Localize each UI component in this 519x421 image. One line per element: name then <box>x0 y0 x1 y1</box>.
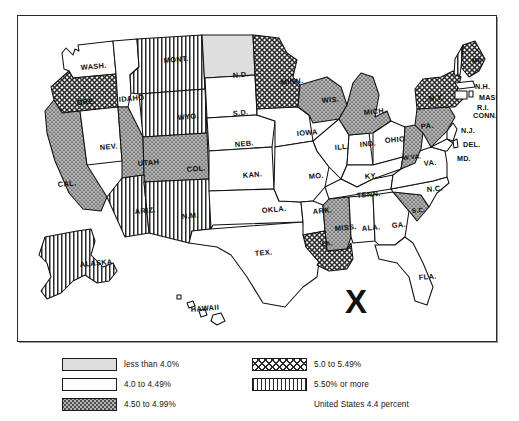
state-label-ala: ALA. <box>361 222 380 233</box>
state-label-ny: N.Y. <box>428 93 444 103</box>
state-label-nev: NEV. <box>99 141 118 152</box>
state-label-iowa: IOWA <box>296 127 318 138</box>
state-label-miss: MISS. <box>334 222 357 233</box>
legend-label-50-549: 5.0 to 5.49% <box>314 360 361 369</box>
state-label-del: DEL. <box>463 140 480 149</box>
state-label-sd: S.D. <box>232 108 249 118</box>
legend-swatch-40-449 <box>62 378 117 391</box>
state-label-nh: N.H. <box>475 82 490 91</box>
state-label-utah: UTAH <box>137 157 159 168</box>
state-label-ark: ARK. <box>312 205 332 216</box>
state-label-sc: S.C. <box>411 206 425 214</box>
state-sd <box>205 75 257 118</box>
state-ny <box>415 71 465 109</box>
state-label-nc: N.C. <box>426 184 443 194</box>
state-label-ariz: ARIZ. <box>134 205 156 216</box>
state-label-nj: N.J. <box>461 126 475 135</box>
state-mass <box>455 81 475 89</box>
state-label-mo: MO. <box>308 171 324 181</box>
legend-label-lt40: less than 4.0% <box>124 360 179 369</box>
state-label-cal: CAL. <box>57 178 76 189</box>
state-label-ohio: OHIO <box>384 134 405 145</box>
state-label-ky: KY. <box>364 171 377 181</box>
state-label-ga: GA. <box>391 220 406 230</box>
state-label-ind: IND. <box>359 139 376 149</box>
state-ore <box>51 71 118 113</box>
state-tex <box>189 222 319 307</box>
state-label-ore: ORE. <box>76 96 96 107</box>
legend-swatch-lt40 <box>62 358 117 371</box>
us-choropleth-map: WASH.ORE.CAL.NEV.IDAHOMONT.WYO.UTAHCOL.A… <box>17 15 497 342</box>
state-nev <box>80 107 122 165</box>
legend-footnote: United States 4.4 percent <box>314 400 409 409</box>
legend-item-550up: 5.50% or more <box>252 376 409 392</box>
legend-swatch-550up <box>252 378 307 391</box>
map-legend: less than 4.0% 4.0 to 4.49% 4.50 to 4.99… <box>0 348 519 418</box>
state-label-pa: PA. <box>420 121 434 131</box>
legend-column-right: 5.0 to 5.49% 5.50% or more United States… <box>252 356 409 416</box>
state-label-va: VA. <box>423 158 437 168</box>
legend-item-50-549: 5.0 to 5.49% <box>252 356 409 372</box>
state-label-md: MD. <box>457 154 471 163</box>
state-label-ill: ILL. <box>334 142 349 152</box>
legend-item-lt40: less than 4.0% <box>62 356 179 372</box>
legend-swatch-450-499 <box>62 398 117 411</box>
state-label-tex: TEX. <box>254 247 273 258</box>
state-ri <box>469 91 473 97</box>
state-label-nm: N.M. <box>181 211 199 221</box>
state-conn <box>455 91 467 99</box>
legend-spacer <box>252 398 307 411</box>
legend-column-left: less than 4.0% 4.0 to 4.49% 4.50 to 4.99… <box>62 356 179 416</box>
legend-label-550up: 5.50% or more <box>314 380 369 389</box>
state-shapes-group <box>39 35 485 325</box>
state-label-fla: FLA. <box>418 271 437 282</box>
legend-item-450-499: 4.50 to 4.99% <box>62 396 179 412</box>
legend-swatch-50-549 <box>252 358 307 371</box>
legend-label-40-449: 4.0 to 4.49% <box>124 380 171 389</box>
state-label-me: ME <box>471 56 482 64</box>
state-label-neb: NEB. <box>234 138 254 149</box>
state-label-wis: WIS. <box>321 95 339 105</box>
state-label-la: LA. <box>321 239 332 247</box>
state-label-conn: CONN. <box>473 111 497 120</box>
map-svg: WASH.ORE.CAL.NEV.IDAHOMONT.WYO.UTAHCOL.A… <box>17 15 497 342</box>
state-ala <box>349 195 375 243</box>
state-label-hawaii: HAWAII <box>190 303 219 314</box>
state-nh <box>454 45 463 75</box>
state-fla <box>375 237 433 305</box>
state-label-kan: KAN. <box>242 169 262 180</box>
legend-footnote-row: United States 4.4 percent <box>252 396 409 412</box>
state-label-nd: N.D. <box>232 70 249 80</box>
state-label-wyo: WYO. <box>177 111 199 122</box>
state-del <box>453 139 458 148</box>
state-minn <box>253 35 300 109</box>
state-label-mass: MASS. <box>479 93 497 102</box>
state-kan <box>209 147 274 191</box>
map-page: WASH.ORE.CAL.NEV.IDAHOMONT.WYO.UTAHCOL.A… <box>0 0 519 421</box>
x-annotation-mark: X <box>345 283 367 320</box>
legend-item-40-449: 4.0 to 4.49% <box>62 376 179 392</box>
legend-label-450-499: 4.50 to 4.99% <box>124 400 176 409</box>
state-label-col: COL. <box>186 163 206 174</box>
